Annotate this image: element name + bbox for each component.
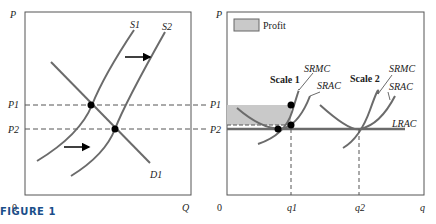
figure-label: FIGURE 1	[0, 206, 56, 217]
scale2-srmc-label: SRMC	[389, 63, 415, 74]
right-plot-frame	[227, 12, 424, 195]
left-x-axis-label: Q	[182, 202, 190, 213]
scale2-srac-label: SRAC	[389, 81, 413, 92]
supply-curve-s1	[37, 30, 134, 161]
scale1-cost-point	[288, 122, 295, 129]
equilibrium-point-2	[112, 126, 119, 133]
figure-canvas: P Q 0 P1 P2 S1 S2 D1 P q 0 P1 P2 Profit	[0, 0, 436, 224]
lrac-label: LRAC	[391, 118, 417, 129]
right-panel: P q 0 P1 P2 Profit LRAC SRMC SRAC Scale …	[209, 9, 425, 213]
scale1-price-point	[288, 102, 295, 109]
d1-label: D1	[149, 169, 162, 180]
scale1-srac-label: SRAC	[317, 80, 341, 91]
profit-legend-swatch	[234, 19, 259, 31]
right-p1-label: P1	[209, 99, 221, 110]
q1-label: q1	[287, 202, 297, 213]
right-y-axis-label: P	[215, 9, 222, 20]
scale1-srac-pointer	[310, 92, 320, 96]
equilibrium-point-1	[88, 102, 95, 109]
scale2-srmc-curve	[343, 90, 378, 148]
demand-curve-d1	[51, 62, 150, 163]
left-plot-frame	[25, 12, 191, 195]
scale1-srmc-label: SRMC	[304, 63, 330, 74]
right-p2-label: P2	[209, 124, 221, 135]
left-p2-label: P2	[7, 124, 19, 135]
scale2-srac-pointer	[388, 92, 390, 100]
left-y-axis-label: P	[9, 9, 16, 20]
scale1-srmc-pointer	[299, 73, 313, 90]
s2-label: S2	[162, 21, 172, 32]
profit-area	[227, 105, 291, 125]
scale1-title: Scale 1	[270, 74, 300, 85]
left-panel: P Q 0 P1 P2 S1 S2 D1	[7, 9, 208, 213]
left-p1-label: P1	[7, 99, 19, 110]
scale1-min-point	[275, 126, 282, 133]
scale2-srac-curve	[320, 96, 395, 129]
right-origin-label: 0	[217, 202, 222, 213]
right-x-axis-label: q	[420, 202, 425, 213]
s1-label: S1	[130, 19, 140, 30]
scale2-title: Scale 2	[350, 73, 380, 84]
profit-legend-label: Profit	[263, 20, 286, 31]
q2-label: q2	[355, 202, 365, 213]
